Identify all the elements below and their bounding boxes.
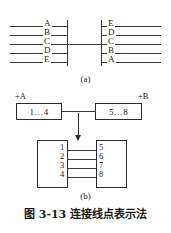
- terminal-label-left-4: E: [43, 55, 51, 64]
- pin-label-right-3: 8: [99, 170, 103, 179]
- pin-link-line-1: [68, 150, 96, 151]
- pin-link-line-3: [68, 168, 96, 169]
- conductor-line-a3: [10, 44, 67, 45]
- expansion-arrow-stem: [78, 113, 79, 137]
- pin-link-line-2: [68, 159, 96, 160]
- designator-plus-b: +B: [138, 92, 148, 101]
- sub-caption-a: (a): [0, 75, 171, 84]
- figure-caption: 图 3-13 连接线点表示法: [0, 209, 171, 220]
- left-block-edge: [67, 20, 68, 66]
- designator-plus-a: +A: [15, 92, 26, 101]
- conductor-line-a1: [10, 26, 67, 27]
- conductor-line-a4: [10, 53, 67, 54]
- conductor-line-a2: [10, 35, 67, 36]
- expansion-arrow-icon: [75, 135, 81, 141]
- conductor-line-a5: [10, 62, 67, 63]
- pin-link-line-4: [68, 177, 96, 178]
- figure-3-13: A B C D E E D C B A (a) +A +B 1…4 5…8: [0, 0, 171, 233]
- sub-caption-b: (b): [0, 192, 171, 201]
- device-b-range: 5…8: [109, 107, 128, 117]
- cross-connection-line: [67, 44, 101, 45]
- device-link-line: [62, 111, 95, 112]
- device-box-a: 1…4: [16, 103, 62, 120]
- terminal-label-right-4: A: [107, 55, 116, 64]
- device-box-b: 5…8: [95, 103, 142, 120]
- pin-label-left-3: 4: [60, 170, 64, 179]
- device-a-range: 1…4: [30, 107, 49, 117]
